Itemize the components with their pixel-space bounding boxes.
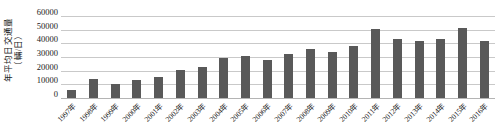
bar	[241, 56, 250, 98]
x-axis-tick-labels: 1997年1998年1999年2000年2001年2002年2003年2004年…	[61, 99, 495, 137]
y-axis-title-line1: 年平均日交通量	[3, 18, 13, 82]
x-axis-tick-label: 1997年	[55, 101, 78, 124]
bar-slot	[473, 16, 495, 98]
bar	[154, 77, 163, 98]
bar-slot	[235, 16, 257, 98]
bar	[415, 41, 424, 98]
bar	[393, 39, 402, 98]
y-axis-tick-label: 40000	[20, 35, 58, 44]
y-axis-tick-label: 30000	[20, 49, 58, 58]
bar	[306, 49, 315, 98]
bar	[67, 90, 76, 98]
bar-slot	[126, 16, 148, 98]
x-axis-tick-slot: 2016年	[473, 99, 495, 137]
bar-slot	[387, 16, 409, 98]
bar	[349, 46, 358, 98]
y-axis-tick-label: 0	[20, 90, 58, 99]
bar	[328, 52, 337, 98]
bar	[458, 28, 467, 98]
bar	[371, 29, 380, 98]
bar-slot	[408, 16, 430, 98]
bar	[263, 60, 272, 98]
bar	[132, 80, 141, 98]
plot-area	[61, 16, 495, 98]
bar-slot	[83, 16, 105, 98]
bar-slot	[321, 16, 343, 98]
y-axis-tick-labels: 6000050000400003000020000100000	[20, 12, 58, 98]
bar-slot	[452, 16, 474, 98]
y-axis-tick-label: 60000	[20, 8, 58, 17]
y-axis-tick-label: 50000	[20, 21, 58, 30]
y-axis-tick-label: 10000	[20, 76, 58, 85]
bar-slot	[170, 16, 192, 98]
bar	[111, 84, 120, 98]
y-axis-tick-label: 20000	[20, 62, 58, 71]
bar-slot	[365, 16, 387, 98]
bar	[89, 79, 98, 98]
bar-slot	[343, 16, 365, 98]
bar-slot	[278, 16, 300, 98]
bar	[219, 58, 228, 98]
bar	[176, 70, 185, 98]
bar-slot	[61, 16, 83, 98]
bar-slot	[148, 16, 170, 98]
bar	[480, 41, 489, 98]
bar	[198, 67, 207, 98]
bars-layer	[61, 16, 495, 98]
bar	[436, 39, 445, 98]
bar-slot	[191, 16, 213, 98]
bar-slot	[300, 16, 322, 98]
bar-slot	[430, 16, 452, 98]
bar-slot	[104, 16, 126, 98]
bar-chart: 年平均日交通量 （輛/日） 60000500004000030000200001…	[0, 0, 501, 137]
bar-slot	[213, 16, 235, 98]
bar	[284, 54, 293, 98]
bar-slot	[256, 16, 278, 98]
